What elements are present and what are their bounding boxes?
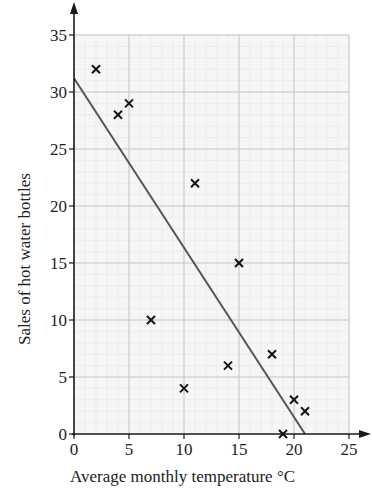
- x-tick-label: 20: [286, 440, 303, 459]
- x-tick-label: 10: [176, 440, 193, 459]
- plot-background: [74, 35, 349, 434]
- x-tick-label: 0: [70, 440, 79, 459]
- x-axis-title: Average monthly temperature °C: [70, 467, 295, 486]
- x-tick-label: 15: [231, 440, 248, 459]
- y-tick-label: 35: [50, 26, 67, 45]
- x-axis-arrow-icon: [359, 430, 371, 438]
- y-tick-label: 5: [59, 368, 68, 387]
- y-tick-label: 0: [59, 425, 68, 444]
- x-tick-label: 25: [341, 440, 358, 459]
- y-tick-label: 30: [50, 83, 67, 102]
- y-axis-title: Sales of hot water bottles: [15, 173, 34, 345]
- y-axis-arrow-icon: [70, 2, 78, 14]
- y-tick-label: 15: [50, 254, 67, 273]
- y-tick-label: 10: [50, 311, 67, 330]
- x-tick-label: 5: [125, 440, 134, 459]
- y-tick-label: 25: [50, 140, 67, 159]
- scatter-chart: 051015202505101520253035 Average monthly…: [0, 0, 372, 488]
- y-tick-label: 20: [50, 197, 67, 216]
